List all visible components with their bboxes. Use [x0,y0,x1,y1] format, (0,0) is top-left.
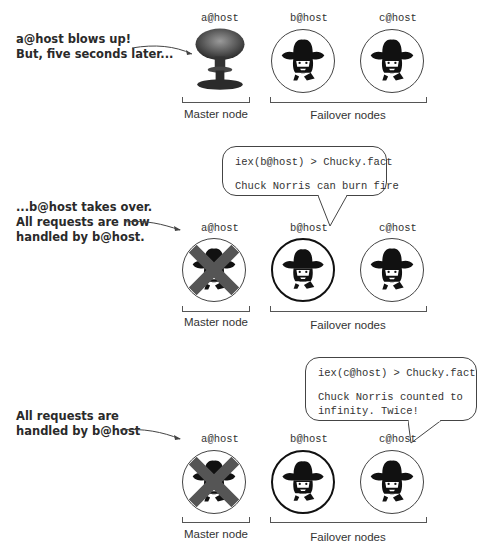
node-host-label: a@host [185,12,255,24]
master-node-label: Master node [176,108,256,120]
iex-prompt: iex(c@host) > Chucky.fact [318,366,464,380]
node-c [360,29,424,93]
failover-bracket [270,517,427,523]
node-host-label: b@host [274,12,344,24]
iex-speech-bubble: iex(b@host) > Chucky.fact Chuck Norris c… [222,146,387,196]
panel-3-arrow [118,426,184,446]
iex-output: Chuck Norris can burn fire [235,179,374,193]
chuck-norris-icon [272,30,334,92]
node-b-active [271,450,335,514]
master-node-label: Master node [176,528,256,540]
node-b [271,29,335,93]
node-b-active [271,238,335,302]
node-host-label: b@host [274,433,344,445]
iex-speech-bubble: iex(c@host) > Chucky.fact Chuck Norris c… [305,357,477,421]
node-c [360,238,424,302]
master-bracket [182,97,250,103]
master-bracket [182,306,250,312]
iex-prompt: iex(b@host) > Chucky.fact [235,155,374,169]
node-a-dead [182,450,246,514]
node-host-label: c@host [363,12,433,24]
node-host-label: a@host [185,433,255,445]
x-cross-icon [183,239,245,301]
panel-2-arrow [122,216,184,236]
chuck-norris-icon [361,239,423,301]
node-a-dead [182,238,246,302]
node-host-label: a@host [185,222,255,234]
chuck-norris-icon [361,451,423,513]
failover-bracket [270,306,427,312]
node-host-label: c@host [363,433,433,445]
node-host-label: b@host [274,222,344,234]
failover-nodes-label: Failover nodes [298,109,398,121]
x-cross-icon [183,451,245,513]
master-bracket [182,517,250,523]
failover-nodes-label: Failover nodes [298,531,398,543]
master-node-label: Master node [176,316,256,328]
node-host-label: c@host [363,222,433,234]
failover-bracket [270,97,427,103]
failover-nodes-label: Failover nodes [298,319,398,331]
chuck-norris-icon [273,452,333,512]
mushroom-cloud-icon [188,25,252,95]
node-c [360,450,424,514]
chuck-norris-icon [361,30,423,92]
chuck-norris-icon [273,240,333,300]
iex-output: Chuck Norris counted to infinity. Twice! [318,390,464,418]
